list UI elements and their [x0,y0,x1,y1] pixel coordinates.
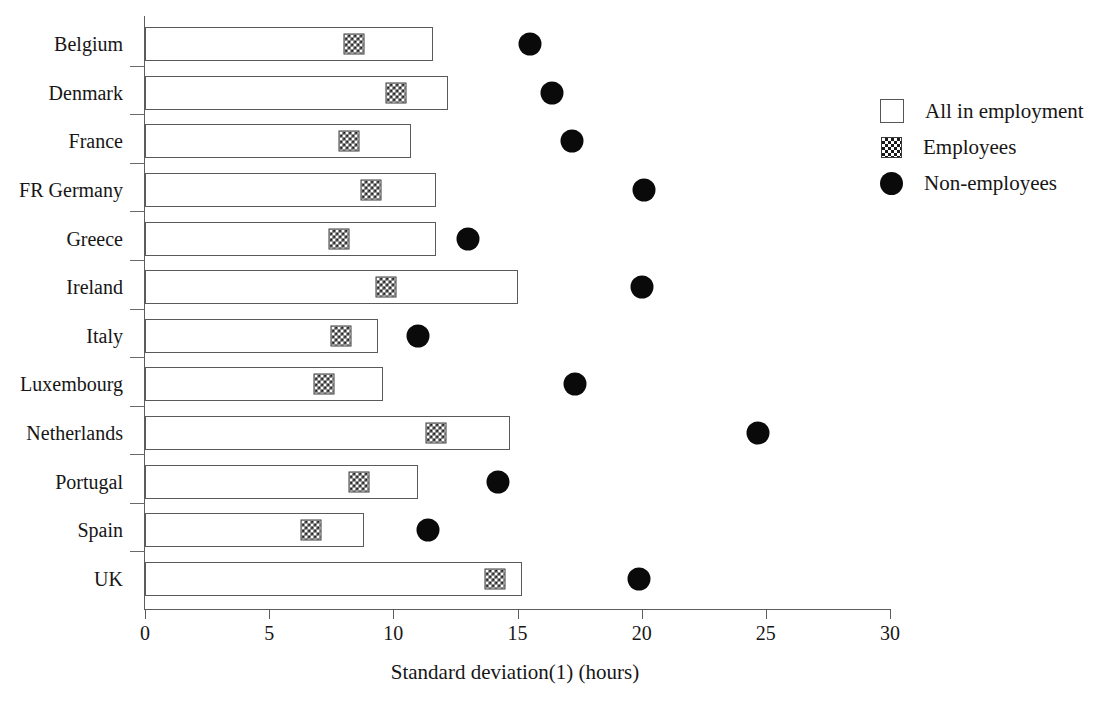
x-axis-tick [269,609,270,619]
legend-label: Non-employees [924,171,1057,196]
marker-employees [360,180,381,201]
legend-item-non-employees: Non-employees [880,165,1110,201]
marker-employees [331,325,352,346]
bar-all-in-employment [145,513,364,547]
y-axis-category-label: UK [94,567,123,590]
marker-non-employees [518,33,541,56]
legend-item-employees: Employees [880,129,1110,165]
marker-non-employees [541,81,564,104]
marker-employees [375,277,396,298]
y-axis-tick [130,309,144,310]
bar-all-in-employment [145,367,383,401]
marker-employees [328,228,349,249]
bar-all-in-employment [145,173,436,207]
standard-deviation-hours-chart: BelgiumDenmarkFranceFR GermanyGreeceIrel… [0,0,1113,705]
x-axis-tick-label: 5 [264,622,274,645]
y-axis-category-label: Luxembourg [20,373,123,396]
y-axis-tick [130,357,144,358]
y-axis-tick [130,454,144,455]
marker-non-employees [633,179,656,202]
marker-non-employees [407,324,430,347]
marker-employees [338,131,359,152]
x-axis-tick [518,609,519,619]
chart-legend: All in employment Employees Non-employee… [880,93,1110,201]
y-axis-tick [130,163,144,164]
x-axis-tick-label: 10 [383,622,403,645]
open-square-icon [880,99,904,123]
y-axis-category-label: Denmark [49,81,123,104]
checkered-square-icon [881,137,902,158]
bar-all-in-employment [145,416,510,450]
y-axis-category-label: Greece [66,227,123,250]
marker-employees [313,374,334,395]
marker-employees [425,422,446,443]
marker-non-employees [628,567,651,590]
marker-employees [301,520,322,541]
marker-employees [385,82,406,103]
bar-all-in-employment [145,270,518,304]
plot-area [145,20,890,603]
x-axis-tick [145,609,146,619]
y-axis-category-label: Ireland [66,276,123,299]
x-axis-tick-label: 20 [632,622,652,645]
marker-non-employees [747,421,770,444]
x-axis-tick-label: 0 [140,622,150,645]
x-axis-tick [642,609,643,619]
x-axis-tick-label: 25 [756,622,776,645]
y-axis-category-label: Spain [77,519,123,542]
filled-circle-icon [880,172,903,195]
y-axis-category-label: Portugal [55,470,123,493]
y-axis-category-label: Belgium [54,33,123,56]
marker-non-employees [561,130,584,153]
marker-employees [485,568,506,589]
bar-all-in-employment [145,27,433,61]
bar-all-in-employment [145,562,522,596]
y-axis-tick [130,211,144,212]
marker-non-employees [456,227,479,250]
x-axis-title: Standard deviation(1) (hours) [0,660,1030,685]
marker-non-employees [486,470,509,493]
x-axis-tick [766,609,767,619]
y-axis-tick [130,406,144,407]
bar-all-in-employment [145,124,411,158]
marker-non-employees [563,373,586,396]
y-axis-category-label: Italy [86,324,123,347]
y-axis-tick [130,114,144,115]
y-axis-category-label: France [69,130,123,153]
y-axis-category-label: FR Germany [19,179,123,202]
x-axis-tick-label: 30 [880,622,900,645]
legend-item-all-in-employment: All in employment [880,93,1110,129]
marker-employees [343,34,364,55]
y-axis-tick [130,66,144,67]
marker-non-employees [417,519,440,542]
bar-all-in-employment [145,222,436,256]
x-axis-tick-label: 15 [508,622,528,645]
y-axis-tick [130,260,144,261]
legend-label: Employees [923,135,1016,160]
x-axis-tick [890,609,891,619]
y-axis-tick [130,551,144,552]
legend-label: All in employment [925,99,1084,124]
marker-non-employees [630,276,653,299]
x-axis-tick [393,609,394,619]
marker-employees [348,471,369,492]
y-axis-tick [130,503,144,504]
bar-all-in-employment [145,465,418,499]
y-axis-label-column: BelgiumDenmarkFranceFR GermanyGreeceIrel… [0,0,123,705]
y-axis-category-label: Netherlands [26,421,123,444]
